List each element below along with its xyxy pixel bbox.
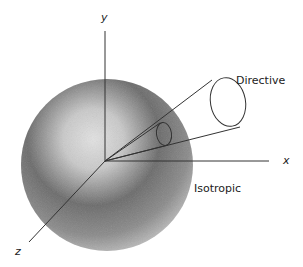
diagram-graphic: [0, 0, 303, 267]
x-axis-label: x: [283, 155, 290, 166]
directive-label: Directive: [236, 75, 285, 86]
radiation-pattern-diagram: y x z Directive Isotropic: [0, 0, 303, 267]
y-axis-label: y: [101, 12, 108, 23]
isotropic-label: Isotropic: [194, 183, 241, 194]
z-axis-label: z: [15, 246, 21, 257]
isotropic-sphere: [21, 79, 193, 251]
